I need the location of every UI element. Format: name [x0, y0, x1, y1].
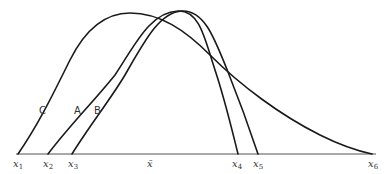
tick-label-x5: x5: [253, 158, 263, 171]
tick-label-x2: x2: [43, 158, 53, 171]
tick-label-x3: x3: [68, 158, 78, 171]
tick-label-x1: x1: [13, 158, 23, 171]
tick-label-x6: x6: [368, 158, 379, 171]
curve-label-b: B: [94, 105, 101, 116]
curve-b: [72, 11, 258, 154]
curve-a: [48, 11, 238, 154]
curve-label-a: A: [74, 105, 81, 116]
curve-c: [18, 13, 372, 154]
distribution-diagram: C A B x1 x2 x3 x̄ x4 x5 x6: [0, 0, 389, 174]
tick-label-x4: x4: [232, 158, 243, 171]
curve-label-c: C: [39, 105, 46, 116]
tick-label-xbar: x̄: [147, 158, 153, 169]
